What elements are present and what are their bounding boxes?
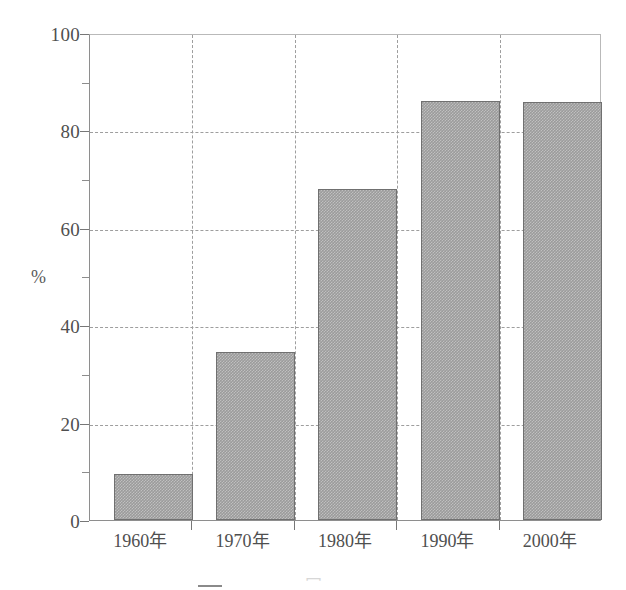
y-axis-label-20: 20 [20,415,80,434]
y-tick-20 [80,424,89,425]
x-axis-label-1990: 1990年 [396,531,498,551]
x-axis-label-1960: 1960年 [89,531,191,551]
y-axis-label-100: 100 [20,25,80,44]
y-tick-80 [80,131,89,132]
y-axis-unit-label: % [31,268,46,286]
x-tick-1 [191,521,192,530]
y-axis-label-40: 40 [20,317,80,336]
x-axis-label-2000: 2000年 [499,531,601,551]
x-tick-4 [499,521,500,530]
y-tick-50 [82,277,89,278]
y-tick-10 [82,472,89,473]
y-tick-30 [82,375,89,376]
bar-1980[interactable] [318,189,397,520]
y-tick-60 [80,229,89,230]
y-axis-label-60: 60 [20,220,80,239]
gridline-x-4 [500,35,501,520]
y-tick-90 [82,83,89,84]
y-axis-label-80: 80 [20,122,80,141]
x-tick-2 [294,521,295,530]
bar-1990[interactable] [421,101,500,520]
x-axis-label-1970: 1970年 [191,531,293,551]
y-tick-70 [82,180,89,181]
gridline-x-3 [397,35,398,520]
y-axis-label-0: 0 [20,512,80,531]
figure-caption-clipped: 図 [0,578,626,590]
plot-area [89,34,601,521]
y-tick-0 [80,521,89,522]
bar-chart-figure: 100 80 60 40 20 0 % 1960年 197 [0,0,626,590]
x-axis-label-1980: 1980年 [294,531,396,551]
y-tick-100 [80,34,89,35]
x-tick-3 [396,521,397,530]
y-tick-40 [80,326,89,327]
bar-1970[interactable] [216,352,295,520]
figure-caption-text: 図 [0,578,626,584]
bar-2000[interactable] [523,102,602,520]
gridline-x-1 [192,35,193,520]
bar-1960[interactable] [114,474,193,520]
gridline-x-2 [295,35,296,520]
